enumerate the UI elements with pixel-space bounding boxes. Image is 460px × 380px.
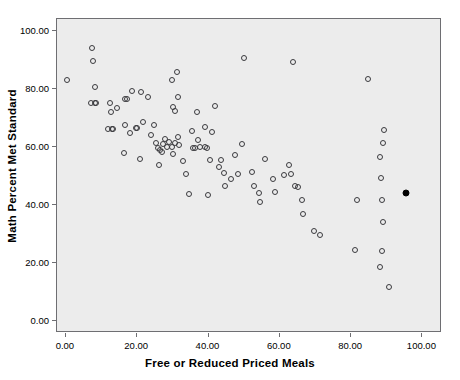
data-point bbox=[202, 124, 208, 130]
data-point bbox=[228, 176, 234, 182]
data-point bbox=[377, 154, 383, 160]
data-point bbox=[127, 130, 133, 136]
y-tick-label: 80.00 bbox=[25, 82, 49, 93]
data-point bbox=[129, 88, 135, 94]
data-point bbox=[138, 89, 144, 95]
x-tick-mark bbox=[421, 333, 422, 337]
x-tick-label: 0.00 bbox=[56, 340, 75, 351]
y-tick-label: 20.00 bbox=[25, 257, 49, 268]
x-tick-label: 40.00 bbox=[196, 340, 220, 351]
data-point bbox=[299, 197, 305, 203]
data-point bbox=[212, 103, 218, 109]
data-point bbox=[204, 145, 210, 151]
data-point bbox=[92, 84, 98, 90]
data-point bbox=[145, 94, 151, 100]
y-axis-title: Math Percent Met Standard bbox=[6, 89, 18, 242]
data-point bbox=[251, 183, 257, 189]
x-tick-mark bbox=[350, 333, 351, 337]
data-point bbox=[239, 141, 245, 147]
plot-area bbox=[56, 18, 441, 332]
data-point bbox=[378, 175, 384, 181]
data-point bbox=[170, 104, 176, 110]
data-point bbox=[281, 172, 287, 178]
data-point bbox=[365, 76, 371, 82]
data-point bbox=[205, 192, 211, 198]
data-point bbox=[235, 171, 241, 177]
data-point bbox=[300, 211, 306, 217]
data-point bbox=[156, 162, 162, 168]
data-point bbox=[148, 132, 154, 138]
data-point bbox=[257, 199, 263, 205]
data-point bbox=[386, 284, 392, 290]
data-point bbox=[175, 134, 181, 140]
data-point bbox=[209, 129, 215, 135]
data-point bbox=[174, 69, 180, 75]
data-point bbox=[183, 171, 189, 177]
data-point bbox=[169, 77, 175, 83]
data-point bbox=[290, 59, 296, 65]
data-point bbox=[241, 55, 247, 61]
data-point bbox=[186, 191, 192, 197]
y-tick-mark bbox=[52, 204, 56, 205]
x-axis-title: Free or Reduced Priced Meals bbox=[0, 357, 460, 369]
data-point bbox=[122, 122, 128, 128]
y-tick-label: 0.00 bbox=[31, 315, 50, 326]
data-point bbox=[89, 45, 95, 51]
x-tick-mark bbox=[279, 333, 280, 337]
data-point bbox=[352, 247, 358, 253]
data-point bbox=[207, 157, 213, 163]
data-point bbox=[317, 232, 323, 238]
data-point bbox=[286, 162, 292, 168]
x-tick-mark bbox=[65, 333, 66, 337]
y-tick-mark bbox=[52, 88, 56, 89]
x-tick-label: 20.00 bbox=[124, 340, 148, 351]
data-point bbox=[288, 171, 294, 177]
y-tick-label: 40.00 bbox=[25, 199, 49, 210]
data-point bbox=[107, 100, 113, 106]
data-point bbox=[218, 157, 224, 163]
data-point-highlighted bbox=[402, 190, 409, 197]
data-point bbox=[151, 122, 157, 128]
data-point bbox=[216, 164, 222, 170]
x-tick-label: 100.00 bbox=[407, 340, 436, 351]
y-tick-mark bbox=[52, 262, 56, 263]
data-point bbox=[232, 152, 238, 158]
data-point bbox=[93, 100, 99, 106]
scatter-plot-figure: 0.0020.0040.0060.0080.00100.00 0.0020.00… bbox=[0, 0, 460, 380]
y-tick-mark bbox=[52, 146, 56, 147]
data-point bbox=[114, 105, 120, 111]
data-point bbox=[194, 109, 200, 115]
data-point bbox=[195, 137, 201, 143]
data-point bbox=[134, 125, 140, 131]
x-tick-mark bbox=[136, 333, 137, 337]
data-point bbox=[64, 77, 70, 83]
y-tick-label: 60.00 bbox=[25, 140, 49, 151]
y-tick-mark bbox=[52, 320, 56, 321]
data-point bbox=[189, 128, 195, 134]
data-point bbox=[380, 219, 386, 225]
data-point bbox=[124, 96, 130, 102]
y-tick-mark bbox=[52, 30, 56, 31]
data-point bbox=[137, 156, 143, 162]
data-point bbox=[121, 150, 127, 156]
data-point bbox=[379, 248, 385, 254]
data-point bbox=[159, 149, 165, 155]
data-point bbox=[90, 58, 96, 64]
data-point bbox=[377, 264, 383, 270]
data-point bbox=[262, 156, 268, 162]
data-point bbox=[222, 183, 228, 189]
x-tick-label: 80.00 bbox=[338, 340, 362, 351]
data-point bbox=[354, 197, 360, 203]
x-tick-mark bbox=[208, 333, 209, 337]
data-point bbox=[272, 189, 278, 195]
data-point bbox=[256, 190, 262, 196]
data-point bbox=[221, 170, 227, 176]
data-point bbox=[270, 176, 276, 182]
data-point bbox=[180, 158, 186, 164]
x-tick-label: 60.00 bbox=[267, 340, 291, 351]
data-point bbox=[140, 119, 146, 125]
y-tick-label: 100.00 bbox=[20, 24, 49, 35]
data-point bbox=[295, 184, 301, 190]
data-point bbox=[175, 94, 181, 100]
data-point bbox=[380, 140, 386, 146]
